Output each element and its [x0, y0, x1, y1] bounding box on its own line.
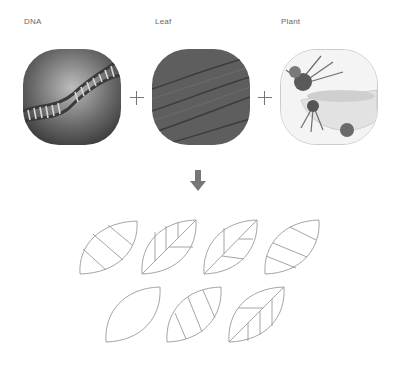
leaf-variant-7: [229, 287, 284, 342]
leaf-variant-1: [80, 221, 137, 274]
leaf-variant-5: [106, 287, 160, 342]
leaf-variant-3: [204, 220, 257, 274]
leaf-variant-2: [142, 220, 196, 274]
leaf-variant-6: [167, 287, 221, 342]
leaf-variant-4: [265, 220, 319, 274]
